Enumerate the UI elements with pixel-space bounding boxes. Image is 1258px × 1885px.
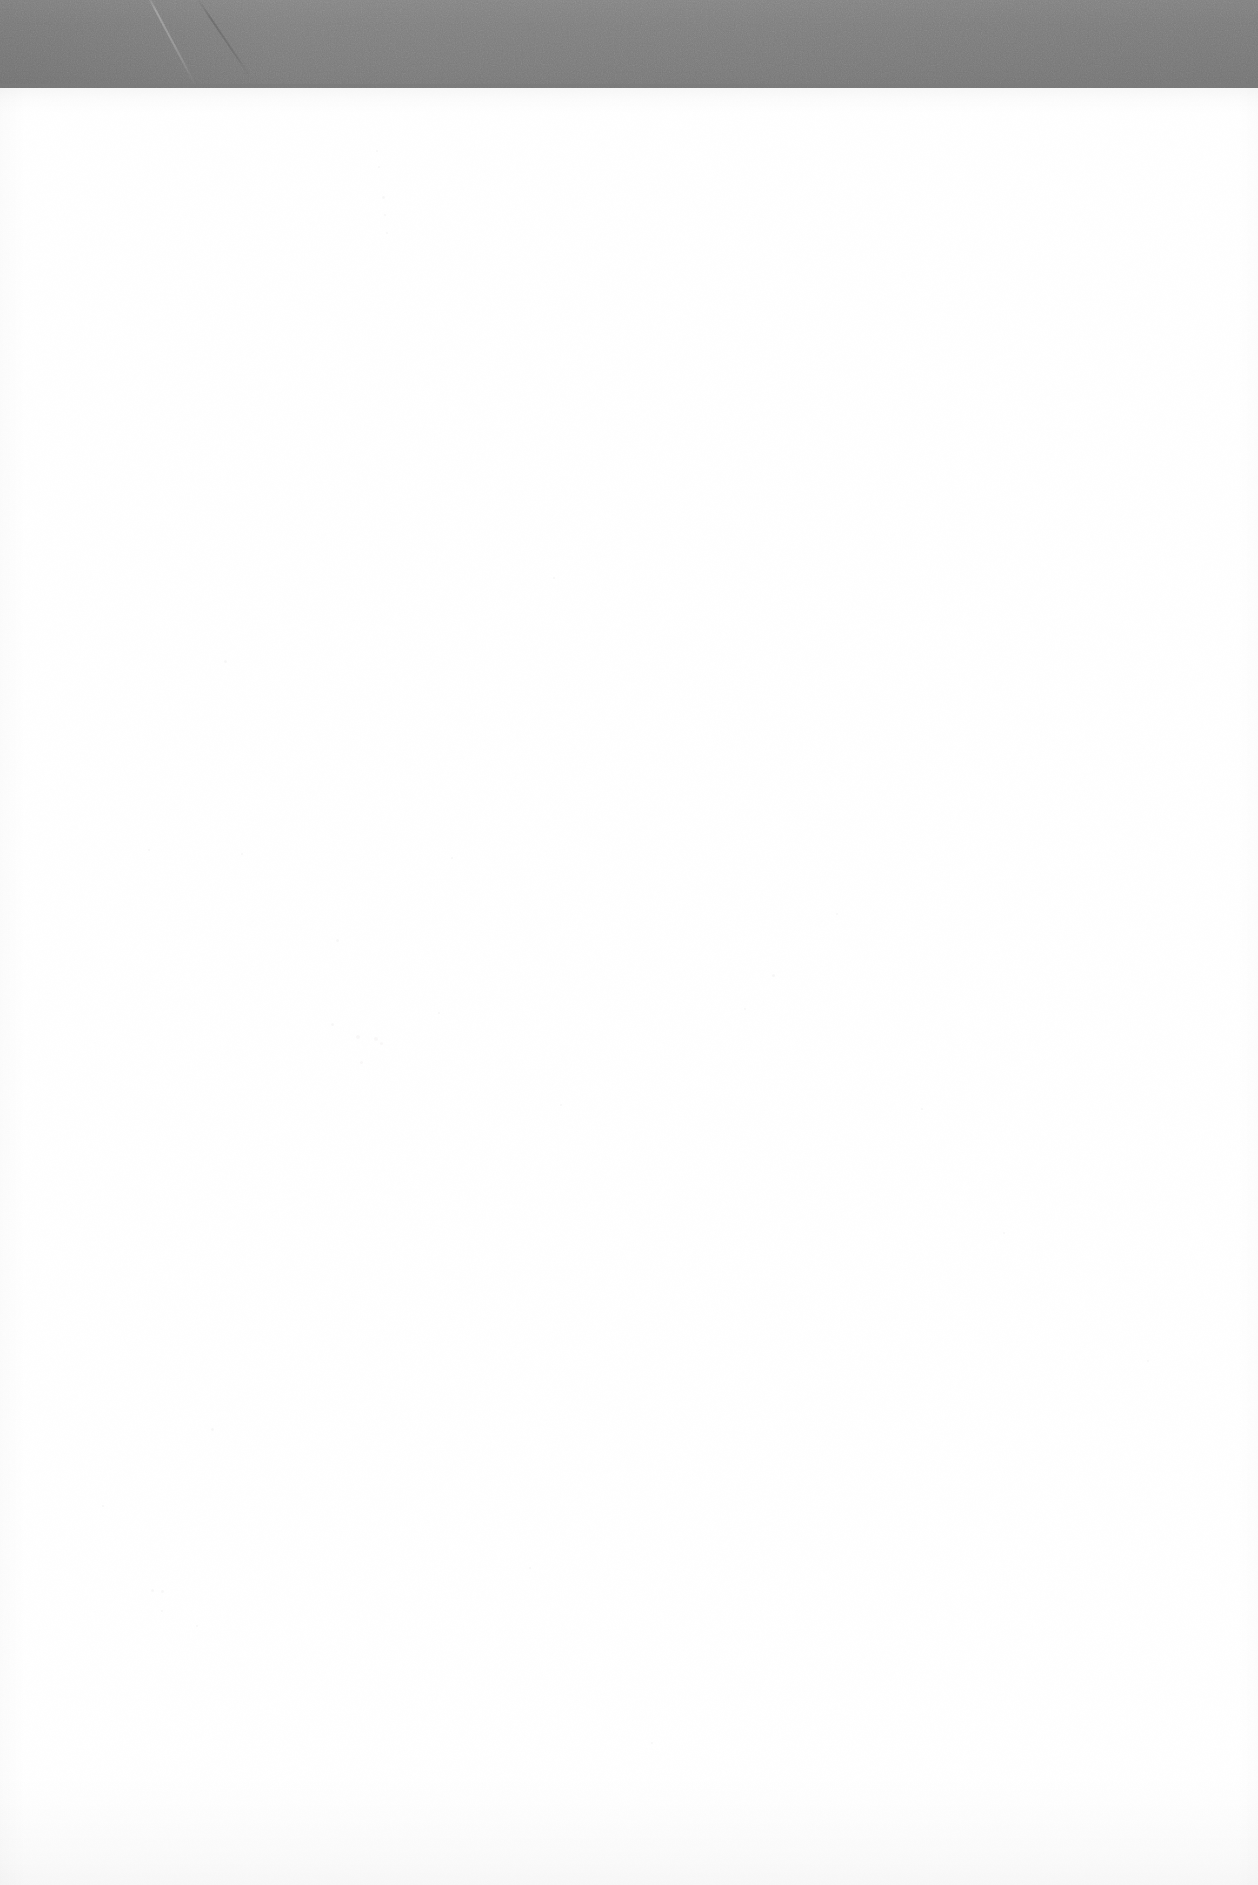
dust-speck [378, 166, 380, 168]
dust-speck [651, 1742, 653, 1744]
dust-speck [382, 196, 385, 199]
scanned-document-page [0, 0, 1258, 1885]
dust-speck [224, 660, 227, 663]
dust-speck [148, 849, 150, 851]
dust-speck [331, 1023, 334, 1026]
scan-crease-dark-icon [196, 0, 251, 78]
dust-speck [560, 1104, 562, 1106]
dust-speck [211, 1428, 214, 1431]
dust-speck [384, 214, 386, 216]
dust-speck [102, 1505, 104, 1507]
dust-speck [451, 857, 453, 859]
dust-speck [380, 1042, 383, 1045]
dust-speck [161, 1610, 163, 1612]
paper-grain-texture [0, 88, 1258, 1885]
scanner-top-band [0, 0, 1258, 90]
dust-speck [374, 1037, 378, 1041]
dust-speck [836, 913, 838, 915]
dust-speck [744, 1008, 746, 1010]
dust-speck [529, 1567, 531, 1569]
scan-crease-light-icon [146, 0, 197, 86]
dust-speck [356, 1035, 360, 1039]
dust-speck [921, 1108, 923, 1110]
dust-speck [376, 150, 378, 152]
dust-speck [241, 853, 243, 855]
page-sheet [0, 88, 1258, 1885]
dust-speck [772, 974, 775, 977]
dust-speck [553, 577, 555, 579]
dust-speck [360, 1061, 363, 1064]
paper-edge-vignette [0, 88, 1258, 1885]
dust-speck [161, 1590, 164, 1593]
dust-speck [438, 1012, 440, 1014]
dust-speck [151, 1589, 154, 1592]
scan-band-grain-texture [0, 0, 1258, 90]
bleed-through-bottom [0, 1770, 1258, 1885]
bleed-through-top [0, 88, 1258, 114]
dust-speck [386, 232, 388, 234]
dust-speck [336, 939, 339, 942]
dust-speck [1147, 1360, 1149, 1362]
dust-speck [196, 1625, 198, 1627]
dust-speck [1003, 1232, 1005, 1234]
